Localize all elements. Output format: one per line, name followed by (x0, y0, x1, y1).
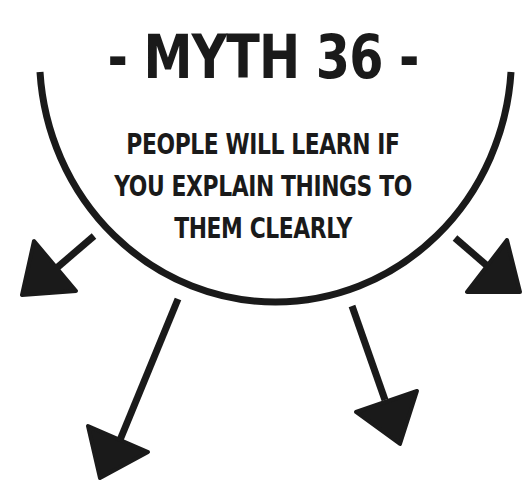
myth-statement-line-2: YOU EXPLAIN THINGS TO (58, 166, 468, 208)
arrow-bottom-left-shaft (120, 299, 178, 440)
myth-statement-line-3: THEM CLEARLY (58, 208, 468, 250)
arrow-lower-right-icon (467, 240, 520, 292)
myth-title: - MYTH 36 - (47, 22, 478, 92)
myth-statement-line-1: PEOPLE WILL LEARN IF (58, 124, 468, 166)
arrow-bottom-left-icon (88, 426, 148, 478)
arrow-bottom-right-shaft (352, 306, 385, 400)
myth-statement: PEOPLE WILL LEARN IF YOU EXPLAIN THINGS … (58, 124, 468, 250)
myth-illustration: - MYTH 36 - PEOPLE WILL LEARN IF YOU EXP… (0, 0, 526, 503)
